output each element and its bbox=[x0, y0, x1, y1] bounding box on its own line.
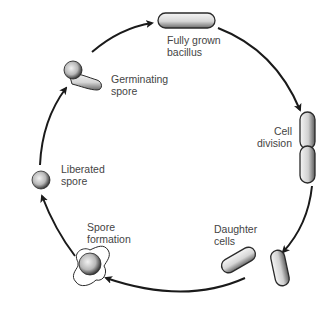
arrow-germinating-to-grown bbox=[92, 23, 152, 52]
arrow-grown-to-division bbox=[218, 28, 300, 110]
cell-division-illustration bbox=[300, 112, 315, 183]
germinating-spore-illustration bbox=[64, 61, 102, 90]
label-cell-division: Cell division bbox=[248, 125, 292, 149]
fully-grown-bacillus-illustration bbox=[158, 13, 215, 28]
arrow-formation-to-liberated bbox=[42, 196, 75, 256]
label-germinating-spore: Germinating spore bbox=[111, 73, 168, 97]
label-fully-grown-bacillus: Fully grown bacillus bbox=[167, 34, 221, 58]
label-daughter-cells: Daughter cells bbox=[214, 223, 257, 247]
arrow-division-to-daughter bbox=[283, 186, 312, 252]
spore-formation-illustration bbox=[73, 246, 109, 285]
label-spore-formation: Spore formation bbox=[87, 221, 131, 245]
liberated-spore-illustration bbox=[32, 171, 50, 189]
label-liberated-spore: Liberated spore bbox=[61, 163, 105, 187]
daughter-cells-illustration bbox=[219, 245, 291, 287]
arrow-daughter-to-formation bbox=[106, 278, 245, 292]
arrow-liberated-to-germinating bbox=[40, 88, 66, 165]
